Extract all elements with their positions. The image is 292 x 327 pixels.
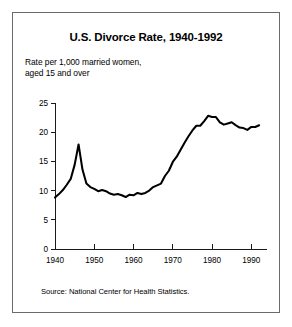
x-tick-label: 1970 bbox=[164, 256, 183, 265]
x-tick-label: 1990 bbox=[242, 256, 261, 265]
divorce-rate-line bbox=[55, 116, 259, 198]
y-tick-label: 25 bbox=[39, 99, 49, 108]
y-tick-label: 5 bbox=[43, 216, 48, 225]
plot-area: 0510152025 194019501960197019801990 bbox=[13, 13, 280, 313]
x-tick-label: 1960 bbox=[124, 256, 143, 265]
source-note: Source: National Center for Health Stati… bbox=[41, 287, 189, 296]
y-tick-label: 10 bbox=[39, 187, 49, 196]
y-tick-label: 15 bbox=[39, 157, 49, 166]
chart-figure-frame: U.S. Divorce Rate, 1940-1992 Rate per 1,… bbox=[12, 12, 280, 313]
x-tick-label: 1980 bbox=[203, 256, 222, 265]
y-tick-label: 20 bbox=[39, 128, 49, 137]
y-tick-label: 0 bbox=[43, 245, 48, 254]
x-tick-label: 1950 bbox=[85, 256, 104, 265]
line-chart-svg: 0510152025 194019501960197019801990 bbox=[13, 13, 280, 313]
x-axis: 194019501960197019801990 bbox=[46, 244, 267, 265]
y-axis: 0510152025 bbox=[39, 99, 55, 254]
x-tick-label: 1940 bbox=[46, 256, 65, 265]
